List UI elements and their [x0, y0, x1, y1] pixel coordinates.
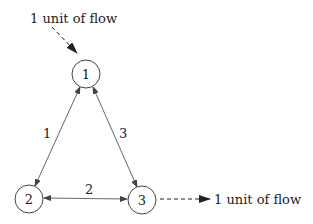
- edge-1-2-label: 1: [43, 126, 51, 141]
- source-flow-arrow: [52, 27, 77, 53]
- node-1-label: 1: [82, 67, 90, 82]
- node-2: 2: [15, 185, 43, 213]
- edge-2-3: [44, 198, 127, 199]
- node-3: 3: [128, 186, 156, 214]
- node-3-label: 3: [138, 193, 146, 208]
- node-1: 1: [72, 60, 100, 88]
- flow-network-diagram: 1 unit of flow 1 3 2 1 2 3 1 unit of flo…: [0, 0, 313, 224]
- edge-1-3-label: 3: [119, 126, 127, 141]
- edge-1-3: [93, 87, 137, 187]
- source-flow-label: 1 unit of flow: [30, 11, 117, 26]
- edge-2-3-label: 2: [85, 182, 93, 197]
- node-2-label: 2: [25, 192, 33, 207]
- sink-flow-label: 1 unit of flow: [214, 192, 301, 207]
- edge-1-2: [35, 87, 80, 186]
